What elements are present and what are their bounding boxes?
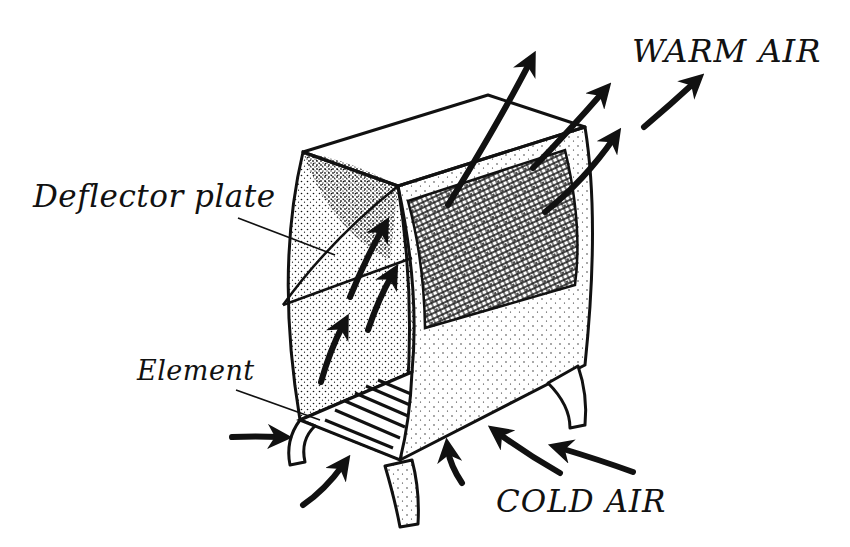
leg-front-right: [385, 460, 418, 527]
heater-front-panel: [398, 127, 593, 460]
cold-arrow-1: [232, 437, 280, 438]
cold-arrow-2: [303, 465, 343, 505]
warm-arrow-4: [644, 82, 695, 127]
cold-arrow-4: [498, 433, 560, 473]
heater-illustration: [0, 0, 850, 547]
element-label: Element: [137, 355, 255, 386]
cold-arrow-3: [448, 450, 462, 483]
deflector-plate-label: Deflector plate: [33, 178, 276, 214]
cold-arrow-5: [560, 448, 633, 472]
warm-air-label: WARM AIR: [632, 32, 821, 70]
cold-air-label: COLD AIR: [496, 483, 666, 519]
leg-front-left: [289, 420, 315, 465]
heater-diagram: WARM AIR COLD AIR Deflector plate Elemen…: [0, 0, 850, 547]
